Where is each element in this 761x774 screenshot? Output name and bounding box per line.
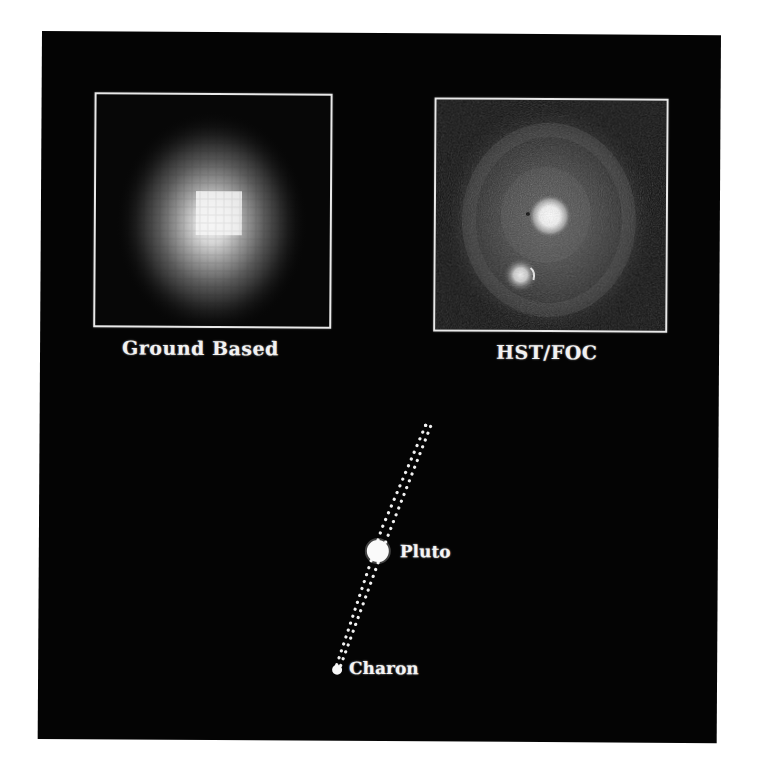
charon-marker [332,665,342,675]
label-charon: Charon [349,658,419,678]
pluto-marker [365,538,391,564]
orbit-diagram [38,31,721,743]
label-pluto: Pluto [400,541,451,561]
figure-panel: Ground Based [38,31,721,743]
